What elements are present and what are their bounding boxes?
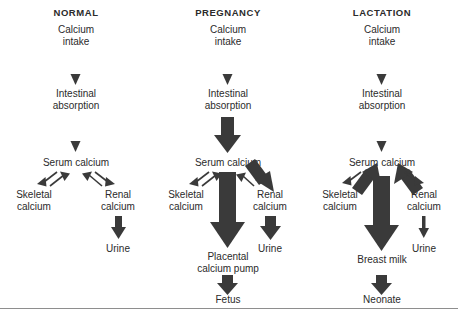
arrow-intake-to-absorption-pregnancy	[223, 50, 233, 85]
arrow-renal-to-serum-normal	[82, 172, 102, 187]
arrow-renal-to-urine-normal	[111, 216, 126, 239]
arrows-lactation	[306, 0, 458, 300]
arrow-intake-to-absorption-lactation	[377, 50, 387, 85]
arrow-serum-to-placental-pump	[210, 172, 245, 248]
arrows-pregnancy	[152, 0, 304, 300]
arrow-placental-pump-to-fetus	[217, 275, 238, 295]
column-normal: NORMAL Calcium intake Intestinal absorpt…	[0, 0, 152, 300]
arrow-serum-to-renal-pregnancy	[245, 159, 274, 192]
arrow-breast-milk-to-neonate	[371, 275, 392, 295]
arrow-serum-to-breast-milk	[364, 176, 399, 251]
arrow-skeletal-to-serum-normal	[50, 172, 70, 187]
bottom-rule	[0, 308, 458, 309]
arrow-intake-to-absorption-normal	[71, 50, 81, 85]
column-lactation: LACTATION Calcium intake Intestinal abso…	[306, 0, 458, 300]
arrow-serum-to-renal-normal	[95, 172, 115, 187]
arrow-absorption-to-serum-normal	[71, 117, 81, 152]
arrow-serum-to-skeletal-pregnancy	[189, 172, 209, 187]
arrow-renal-to-urine-pregnancy	[260, 216, 281, 240]
arrows-normal	[0, 0, 152, 300]
arrow-absorption-to-serum-pregnancy	[214, 117, 241, 153]
arrow-absorption-to-serum-lactation	[377, 117, 387, 152]
column-pregnancy: PREGNANCY Calcium intake Intestinal abso…	[152, 0, 304, 300]
calcium-metabolism-figure: NORMAL Calcium intake Intestinal absorpt…	[0, 0, 458, 325]
arrow-serum-to-skeletal-normal	[37, 172, 57, 187]
arrow-renal-to-urine-lactation	[419, 216, 430, 238]
